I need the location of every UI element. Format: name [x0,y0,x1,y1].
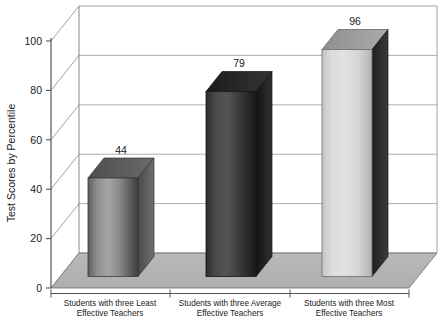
category-3-line-2: Effective Teachers [316,309,383,318]
y-axis-title: Test Scores by Percentile [5,104,17,223]
category-3-line-1: Students with three Most [304,299,395,308]
bar-2-value-label: 79 [233,57,245,69]
y-tick-label-0: 0 [36,282,42,294]
bar-chart-3d: 0 20 40 60 80 100 Test Scores by Percent… [0,0,443,323]
category-2-line-1: Students with three Average [179,299,282,308]
bar-1-side [138,158,154,277]
bar-1-value-label: 44 [115,144,127,156]
y-axis [46,38,51,288]
y-tick-label-100: 100 [24,35,42,47]
category-2-line-2: Effective Teachers [197,309,264,318]
bar-3-side [372,30,388,277]
y-tick-label-80: 80 [30,84,42,96]
bar-3[interactable] [322,30,388,277]
bar-3-front [322,50,372,277]
category-1-line-2: Effective Teachers [77,309,144,318]
depth-connectors [51,6,79,288]
bar-3-value-label: 96 [349,15,361,27]
bar-1[interactable] [88,158,154,277]
y-tick-label-40: 40 [30,183,42,195]
bar-2-front [206,92,256,277]
y-tick-label-20: 20 [30,232,42,244]
bar-1-front [88,178,138,277]
bar-2-side [256,72,272,277]
bar-2[interactable] [206,72,272,277]
y-tick-label-60: 60 [30,134,42,146]
chart-container: 0 20 40 60 80 100 Test Scores by Percent… [0,0,443,323]
y-axis-title-group: Test Scores by Percentile [5,104,17,223]
y-axis-tick-labels: 0 20 40 60 80 100 [24,35,42,294]
x-axis [51,290,409,298]
x-axis-category-labels: Students with three Least Effective Teac… [64,299,395,318]
category-1-line-1: Students with three Least [64,299,157,308]
